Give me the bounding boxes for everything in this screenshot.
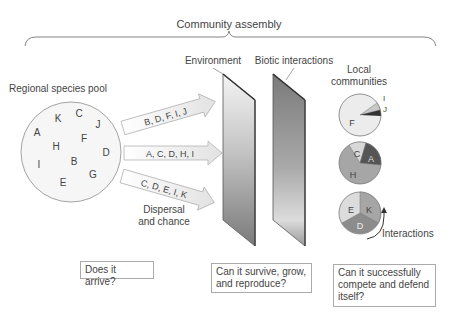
species-label: I: [38, 159, 41, 170]
svg-text:A, C, D, H, I: A, C, D, H, I: [146, 149, 194, 159]
community-pie-3: E K D: [339, 192, 381, 234]
question-survive: Can it survive, grow, and reproduce?: [211, 263, 312, 293]
environment-label: Environment: [185, 55, 241, 66]
species-label: E: [60, 177, 67, 188]
species-label: B: [71, 156, 78, 167]
svg-text:A: A: [368, 154, 374, 164]
species-label: F: [81, 133, 87, 144]
dispersal-arrow-1: B, D, F, I, J: [120, 90, 219, 140]
svg-text:F: F: [349, 118, 355, 128]
biotic-label: Biotic interactions: [255, 55, 333, 66]
interactions-label: Interactions: [382, 228, 434, 239]
species-label: K: [55, 113, 62, 124]
local-label: Local: [347, 64, 371, 75]
question-arrive: Does it arrive?: [80, 261, 154, 279]
svg-text:and chance: and chance: [138, 216, 190, 227]
title: Community assembly: [176, 18, 282, 30]
community-pie-1: F I J: [339, 94, 387, 136]
species-label: D: [102, 147, 109, 158]
species-label: C: [75, 108, 82, 119]
svg-text:H: H: [350, 170, 357, 180]
species-label: A: [34, 127, 41, 138]
dispersal-label: Dispersal: [143, 204, 185, 215]
svg-text:D: D: [357, 221, 364, 231]
svg-text:communities: communities: [331, 76, 387, 87]
question-compete: Can it successfully compete and defend i…: [333, 264, 436, 307]
svg-text:I: I: [383, 94, 385, 103]
svg-text:J: J: [383, 105, 387, 114]
svg-text:C: C: [354, 149, 361, 159]
species-label: G: [89, 169, 97, 180]
species-label: J: [96, 119, 101, 130]
svg-text:K: K: [366, 205, 372, 215]
svg-text:E: E: [348, 205, 354, 215]
species-label: H: [52, 141, 59, 152]
community-pie-2: C A H: [339, 142, 381, 184]
assembly-brace: [25, 31, 436, 46]
pool-label: Regional species pool: [9, 83, 107, 94]
biotic-filter: [273, 74, 305, 246]
dispersal-arrow-2: A, C, D, H, I: [124, 141, 222, 165]
environment-filter: [223, 74, 255, 246]
